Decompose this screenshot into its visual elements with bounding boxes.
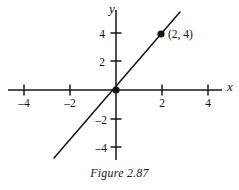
x-tick-label-4: 4 <box>205 97 211 109</box>
y-axis-label: y <box>107 1 115 16</box>
y-tick-label-minus4: –4 <box>95 142 108 154</box>
figure-container: –4 –2 2 4 4 2 –2 –4 y x (2, 4) Figure 2.… <box>0 0 239 190</box>
point-2-4-dot <box>157 30 164 37</box>
graph-svg: –4 –2 2 4 4 2 –2 –4 y x (2, 4) <box>0 0 239 168</box>
y-tick-label-2: 2 <box>99 56 105 68</box>
point-label-2-4: (2, 4) <box>168 28 193 41</box>
figure-caption: Figure 2.87 <box>0 166 239 181</box>
y-tick-label-4: 4 <box>99 28 105 40</box>
x-tick-label-minus4: –4 <box>17 97 30 109</box>
origin-point-dot <box>112 86 119 93</box>
coordinate-plot: –4 –2 2 4 4 2 –2 –4 y x (2, 4) <box>0 0 239 168</box>
x-tick-label-2: 2 <box>159 97 165 109</box>
y-tick-label-minus2: –2 <box>95 114 108 126</box>
x-tick-label-minus2: –2 <box>63 97 76 109</box>
x-axis-label: x <box>226 79 233 94</box>
